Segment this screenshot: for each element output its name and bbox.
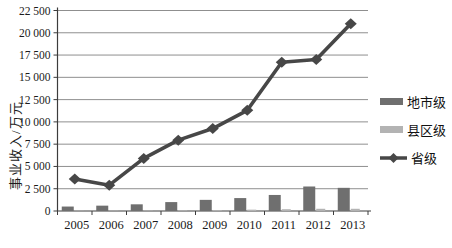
chart: 事业收入/万元 02 5005 0007 50010 00012 50015 0…: [0, 0, 452, 248]
province-line: [75, 24, 351, 185]
legend: 地市级 县区级 省级: [380, 92, 446, 167]
bars-prefecture-level: [62, 186, 350, 211]
bar-prefecture-2013: [338, 188, 350, 211]
county-level-swatch: [380, 126, 403, 133]
legend-label-province-level: 省级: [411, 148, 437, 167]
x-tick-label: 2011: [271, 218, 296, 232]
y-tick-label: 20 000: [19, 27, 51, 39]
y-tick-label: 17 500: [19, 49, 51, 61]
x-tick-label: 2012: [306, 218, 331, 232]
bar-county-2012: [316, 209, 325, 211]
bar-prefecture-2011: [269, 195, 281, 211]
x-tick-label: 2008: [168, 218, 193, 232]
bars-county-level: [75, 209, 360, 211]
bar-prefecture-2005: [62, 207, 74, 211]
bar-prefecture-2007: [131, 204, 143, 211]
legend-label-prefecture-level: 地市级: [407, 92, 446, 111]
y-tick-label: 22 500: [19, 5, 51, 17]
gridlines: [58, 11, 369, 189]
x-tick-labels: 200520062007200820092010201120122013: [64, 218, 365, 232]
bar-prefecture-2012: [303, 186, 315, 211]
legend-item-province-level: 省级: [380, 148, 446, 167]
legend-item-prefecture-level: 地市级: [380, 92, 446, 111]
bar-county-2010: [247, 210, 256, 211]
y-tick-label: 2 500: [25, 183, 51, 195]
y-tick-label: 7 500: [25, 138, 51, 150]
bar-prefecture-2008: [165, 202, 177, 211]
bar-county-2013: [351, 209, 360, 211]
bar-prefecture-2006: [96, 206, 108, 211]
legend-label-county-level: 县区级: [407, 120, 446, 139]
y-tick-label: 10 000: [19, 116, 51, 128]
bar-county-2008: [178, 210, 187, 211]
y-tick-label: 15 000: [19, 71, 51, 83]
diamond-markers: [69, 18, 357, 190]
x-axis: [58, 211, 372, 215]
x-tick-label: 2005: [64, 218, 89, 232]
bar-prefecture-2010: [234, 198, 246, 211]
legend-item-county-level: 县区级: [380, 120, 446, 139]
bar-county-2009: [213, 210, 222, 211]
y-tick-label: 12 500: [19, 94, 51, 106]
x-tick-label: 2013: [340, 218, 365, 232]
diamond-marker-2005: [69, 173, 81, 184]
bar-prefecture-2009: [200, 200, 212, 211]
bar-county-2011: [282, 209, 291, 211]
x-tick-label: 2009: [202, 218, 227, 232]
y-axis: 02 5005 0007 50010 00012 50015 00017 500…: [19, 5, 58, 218]
y-tick-label: 5 000: [25, 160, 51, 172]
x-tick-label: 2006: [99, 218, 124, 232]
x-tick-label: 2010: [237, 218, 262, 232]
prefecture-level-swatch: [380, 98, 403, 105]
y-tick-label: 0: [45, 205, 51, 217]
province-level-line-swatch: [380, 152, 407, 164]
x-tick-label: 2007: [133, 218, 158, 232]
